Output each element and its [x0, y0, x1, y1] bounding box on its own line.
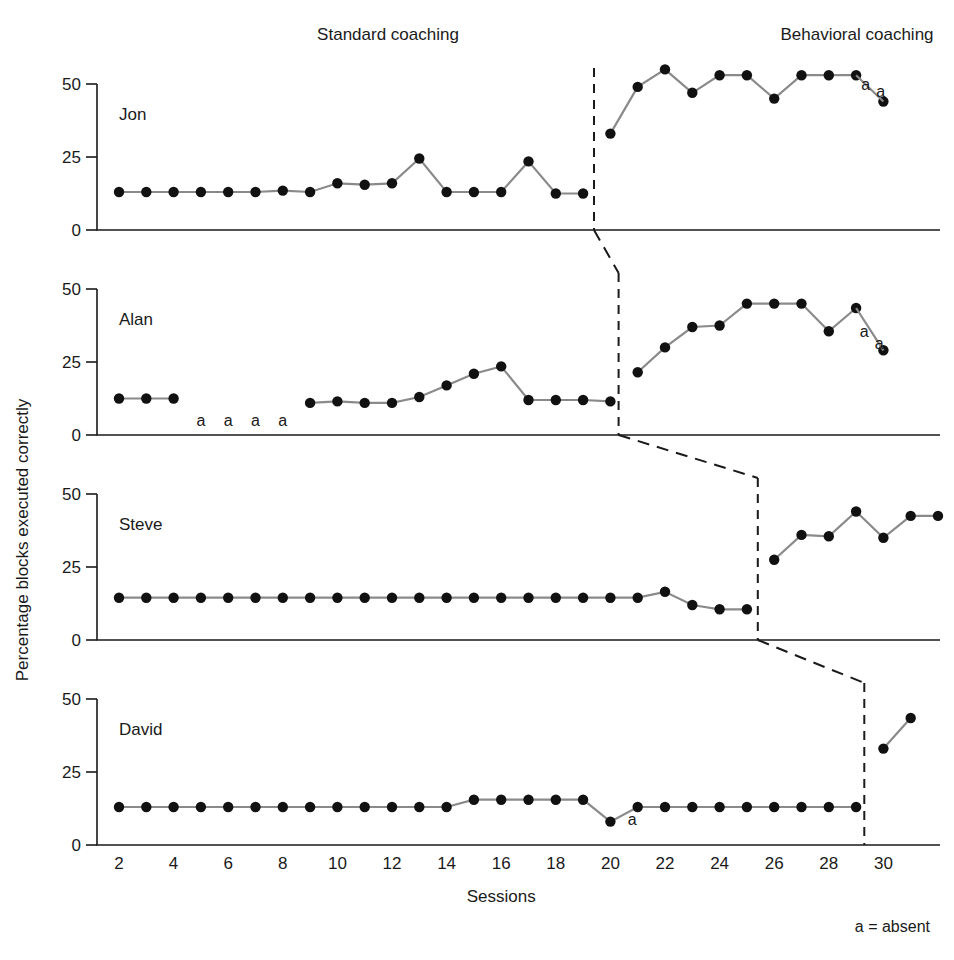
- x-tick-label-2: 2: [114, 854, 123, 873]
- data-point: [141, 593, 151, 603]
- panel-label-jon: Jon: [119, 105, 146, 124]
- data-point: [578, 395, 588, 405]
- data-point: [250, 593, 260, 603]
- data-point: [523, 795, 533, 805]
- data-point: [578, 188, 588, 198]
- absent-marker: a: [224, 412, 233, 429]
- panel-jon: 02550Jonaa: [62, 64, 940, 240]
- data-point: [605, 593, 615, 603]
- data-point: [469, 795, 479, 805]
- data-point: [223, 187, 233, 197]
- x-tick-label-22: 22: [656, 854, 675, 873]
- y-tick-label-25: 25: [62, 558, 81, 577]
- data-point: [496, 187, 506, 197]
- data-point: [360, 398, 370, 408]
- data-point: [441, 593, 451, 603]
- data-point: [196, 802, 206, 812]
- data-point: [551, 188, 561, 198]
- data-point: [714, 70, 724, 80]
- x-tick-label-12: 12: [383, 854, 402, 873]
- data-point: [114, 802, 124, 812]
- data-point: [387, 178, 397, 188]
- data-point: [414, 802, 424, 812]
- data-point: [168, 187, 178, 197]
- data-point: [114, 593, 124, 603]
- panel-phase-connector: [758, 640, 865, 683]
- data-point: [278, 593, 288, 603]
- data-point: [578, 593, 588, 603]
- y-tick-label-50: 50: [62, 75, 81, 94]
- data-point: [687, 88, 697, 98]
- data-point: [714, 604, 724, 614]
- data-point: [605, 816, 615, 826]
- data-point: [523, 395, 533, 405]
- data-point: [332, 802, 342, 812]
- panel-phase-connector: [619, 435, 758, 478]
- data-point: [360, 593, 370, 603]
- y-tick-label-25: 25: [62, 353, 81, 372]
- data-point: [441, 802, 451, 812]
- data-point: [168, 393, 178, 403]
- x-tick-label-10: 10: [328, 854, 347, 873]
- data-point: [168, 802, 178, 812]
- data-point: [605, 128, 615, 138]
- data-point: [496, 361, 506, 371]
- absent-marker: a: [861, 76, 870, 93]
- data-point: [796, 530, 806, 540]
- x-tick-label-24: 24: [710, 854, 729, 873]
- data-point: [469, 369, 479, 379]
- absent-marker: a: [876, 83, 885, 100]
- data-point: [360, 180, 370, 190]
- x-tick-label-20: 20: [601, 854, 620, 873]
- panel-label-steve: Steve: [119, 515, 162, 534]
- x-tick-label-26: 26: [765, 854, 784, 873]
- data-point: [469, 593, 479, 603]
- data-point: [824, 70, 834, 80]
- data-point: [305, 398, 315, 408]
- data-point: [824, 802, 834, 812]
- data-point: [714, 320, 724, 330]
- data-point: [660, 342, 670, 352]
- data-point: [414, 593, 424, 603]
- data-point: [523, 593, 533, 603]
- x-tick-label-28: 28: [819, 854, 838, 873]
- data-point: [796, 298, 806, 308]
- y-tick-label-25: 25: [62, 763, 81, 782]
- panel-axes: [97, 494, 940, 640]
- panel-steve: 02550Steve: [62, 478, 943, 650]
- data-point: [796, 70, 806, 80]
- data-point: [250, 802, 260, 812]
- panel-alan: 02550Alanaaaaaa: [62, 273, 940, 445]
- data-point: [796, 802, 806, 812]
- data-point: [223, 802, 233, 812]
- x-axis-label: Sessions: [467, 887, 536, 906]
- data-point: [387, 802, 397, 812]
- absent-marker: a: [628, 811, 637, 828]
- data-point: [305, 802, 315, 812]
- data-point: [469, 187, 479, 197]
- data-point: [769, 93, 779, 103]
- multiple-baseline-figure: Standard coachingBehavioral coachingPerc…: [0, 0, 954, 960]
- data-point: [114, 187, 124, 197]
- data-point: [687, 322, 697, 332]
- legend-absent-note: a = absent: [855, 918, 931, 935]
- data-point: [141, 187, 151, 197]
- data-point: [742, 604, 752, 614]
- y-tick-label-0: 0: [72, 836, 81, 855]
- data-point: [414, 153, 424, 163]
- baseline-segment: [119, 592, 747, 610]
- data-point: [851, 506, 861, 516]
- data-point: [824, 326, 834, 336]
- absent-marker: a: [251, 412, 260, 429]
- phase-label-baseline: Standard coaching: [317, 25, 459, 44]
- data-point: [278, 185, 288, 195]
- y-tick-label-50: 50: [62, 280, 81, 299]
- data-point: [714, 802, 724, 812]
- data-point: [660, 587, 670, 597]
- baseline-segment: [310, 366, 610, 403]
- data-point: [851, 802, 861, 812]
- data-point: [551, 795, 561, 805]
- data-point: [551, 593, 561, 603]
- data-point: [933, 511, 943, 521]
- x-tick-label-14: 14: [437, 854, 456, 873]
